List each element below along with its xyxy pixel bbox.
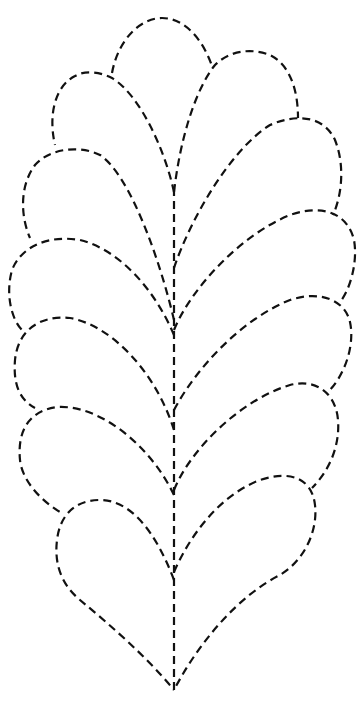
feather-stencil-canvas: feather quilting stencil (0, 0, 360, 709)
right-plume-4 (174, 296, 351, 410)
feather-stencil-drawing (0, 0, 360, 709)
right-plume-6 (174, 476, 315, 690)
left-plume-3 (9, 239, 174, 335)
left-plume-6 (56, 500, 174, 690)
top-plume (112, 18, 212, 73)
right-plume-2 (174, 118, 341, 268)
left-plume-1 (52, 72, 174, 192)
right-plume-5 (174, 383, 338, 490)
left-plume-5 (20, 407, 174, 512)
